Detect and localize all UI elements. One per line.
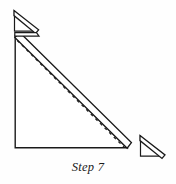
- main-triangle-group: [15, 33, 132, 149]
- top-edge-strip: [15, 33, 39, 36]
- lower-right-flap-group: [140, 136, 165, 159]
- upper-left-flap-group: [14, 11, 39, 34]
- figure-container: Step 7: [0, 0, 176, 184]
- fold-diagram: [0, 0, 176, 184]
- figure-caption: Step 7: [0, 159, 176, 175]
